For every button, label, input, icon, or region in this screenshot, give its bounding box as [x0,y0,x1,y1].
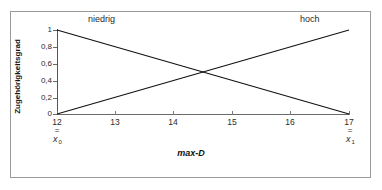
y-tick-label: 0,8 [30,43,52,51]
y-axis-title: Zugehörigkeitsgrad [13,22,22,132]
y-tick-labels: 1 0,8 0,6 0,4 0,2 0 [28,0,52,190]
chart-figure: niedrig hoch 1 0,8 0,6 0,4 0,2 0 12 13 1… [0,0,382,190]
plot-svg [57,30,349,114]
y-tick-label: 0,6 [30,60,52,68]
y-tick-label: 1 [30,26,52,34]
subscript-0: 0 [59,139,62,145]
x-axis-line [57,114,350,115]
series-label-niedrig: niedrig [88,14,115,24]
y-tick-label: 0,2 [30,94,52,102]
x-tick-label: 13 [103,118,127,127]
series-label-hoch: hoch [300,14,320,24]
y-tick-label: 0,4 [30,77,52,85]
variable-x-glyph: x [53,134,58,144]
subscript-1: 1 [352,139,355,145]
x-tick-mark [349,111,350,115]
x-tick-label: 14 [161,118,185,127]
annotation-x0: = x0 [37,128,77,145]
annotation-x1: = x1 [330,128,370,145]
x-tick-label: 15 [220,118,244,127]
y-tick-label: 0 [30,110,52,118]
x-tick-label: 16 [278,118,302,127]
variable-x0: x0 [37,134,77,145]
plot-area [57,30,349,114]
x-axis-title: max-D [0,148,382,158]
variable-x1: x1 [330,134,370,145]
variable-x-glyph: x [346,134,351,144]
